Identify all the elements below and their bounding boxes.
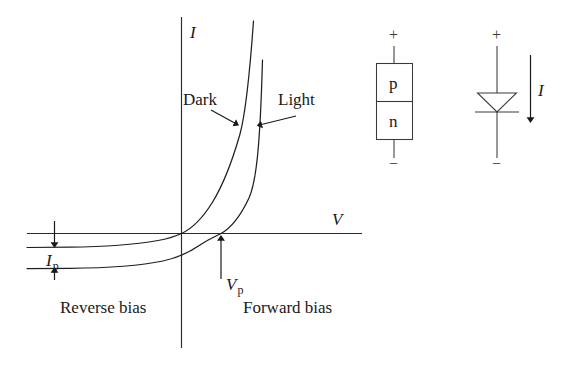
diode-symbol-diagram: + − I	[475, 26, 545, 172]
region-labels: Reverse bias Forward bias	[60, 298, 332, 317]
pn-minus-sign: −	[389, 155, 398, 172]
light-curve-label: Light	[278, 90, 315, 109]
photovoltage-label: Vp	[226, 275, 243, 297]
diode-minus-sign: −	[492, 155, 501, 172]
photocurrent-label: Ip	[45, 251, 59, 273]
diode-plus-sign: +	[492, 26, 501, 43]
curve-annotations: Dark Light	[183, 90, 315, 125]
photodiode-characteristic-figure: I V Dark Light Ip Vp	[0, 0, 562, 367]
photovoltage-marker: Vp	[221, 238, 243, 297]
photocurrent-measure: Ip	[45, 221, 59, 280]
pn-n-layer-label: n	[389, 112, 398, 131]
current-axis-label: I	[189, 23, 197, 42]
dark-curve	[27, 21, 254, 248]
dark-pointer-arrow	[211, 110, 237, 124]
pn-plus-sign: +	[389, 26, 398, 43]
diode-current-label: I	[537, 81, 545, 100]
figure-root: I V Dark Light Ip Vp	[0, 0, 562, 367]
reverse-bias-label: Reverse bias	[60, 298, 146, 317]
forward-bias-label: Forward bias	[243, 298, 332, 317]
pn-junction-diagram: + p n −	[377, 26, 413, 172]
pn-p-layer-label: p	[389, 74, 398, 93]
dark-curve-label: Dark	[183, 90, 217, 109]
voltage-axis-label: V	[332, 210, 345, 229]
diode-triangle-icon	[478, 93, 517, 112]
graph-curves	[27, 21, 263, 269]
light-curve	[27, 60, 263, 269]
photocurrent-subscript: p	[53, 259, 59, 273]
photovoltage-subscript: p	[237, 283, 243, 297]
light-pointer-arrow	[260, 116, 297, 125]
